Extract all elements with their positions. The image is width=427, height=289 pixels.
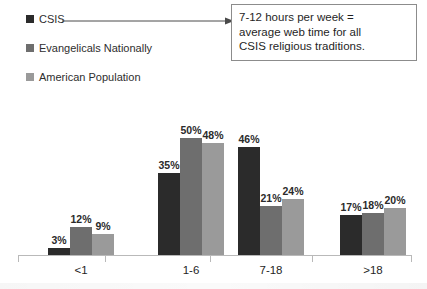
bar-value-label: 18% [362,199,383,211]
bar[interactable] [260,206,282,255]
x-axis-tick [18,255,19,262]
bar-value-label: 21% [260,192,281,204]
legend-item-label: CSIS [39,14,65,25]
x-axis-tick [105,255,106,262]
plot-area: 3%12%9%35%50%48%46%21%24%17%18%20% [18,100,412,255]
annotation-line: average web time for all [239,25,409,40]
bar[interactable] [180,138,202,255]
bar-value-label: 20% [384,194,405,206]
x-axis-category-label: <1 [48,264,114,276]
bar-value-label: 50% [180,124,201,136]
bar-value-label: 17% [340,201,361,213]
bar-value-label: 35% [158,159,179,171]
bar[interactable] [362,213,384,255]
annotation-callout: 7-12 hours per week = average web time f… [231,4,417,61]
bar-value-label: 48% [202,129,223,141]
bar[interactable] [70,227,92,255]
bar[interactable] [282,199,304,255]
right-arrow-icon [62,15,234,27]
annotation-line: 7-12 hours per week = [239,10,409,25]
x-axis-line [18,255,412,256]
bar-value-label: 24% [282,185,303,197]
square-swatch-icon [26,15,34,23]
square-swatch-icon [26,44,34,52]
bar-value-label: 46% [238,133,259,145]
x-axis-category-label: 7-18 [238,264,304,276]
x-axis-tick [210,255,211,262]
x-axis-tick [411,255,412,262]
x-axis-tick [312,255,313,262]
bar-value-label: 9% [95,220,110,232]
bar[interactable] [92,234,114,255]
scan-artifact [0,283,427,289]
bar[interactable] [340,215,362,255]
legend-item-evangelicals-nationally[interactable]: Evangelicals Nationally [26,41,152,55]
annotation-line: CSIS religious traditions. [239,39,409,54]
legend-item-american-population[interactable]: American Population [26,70,152,84]
legend-item-label: Evangelicals Nationally [39,43,152,54]
bar[interactable] [48,248,70,255]
bar[interactable] [202,143,224,255]
bar-value-label: 3% [51,234,66,246]
legend-item-label: American Population [39,72,141,83]
bar-value-label: 12% [70,213,91,225]
bar[interactable] [238,147,260,255]
chart-container: CSIS Evangelicals Nationally American Po… [0,0,427,289]
bar[interactable] [384,208,406,255]
x-axis-category-label: 1-6 [158,264,224,276]
square-swatch-icon [26,73,34,81]
x-axis-category-label: >18 [340,264,406,276]
bar[interactable] [158,173,180,255]
